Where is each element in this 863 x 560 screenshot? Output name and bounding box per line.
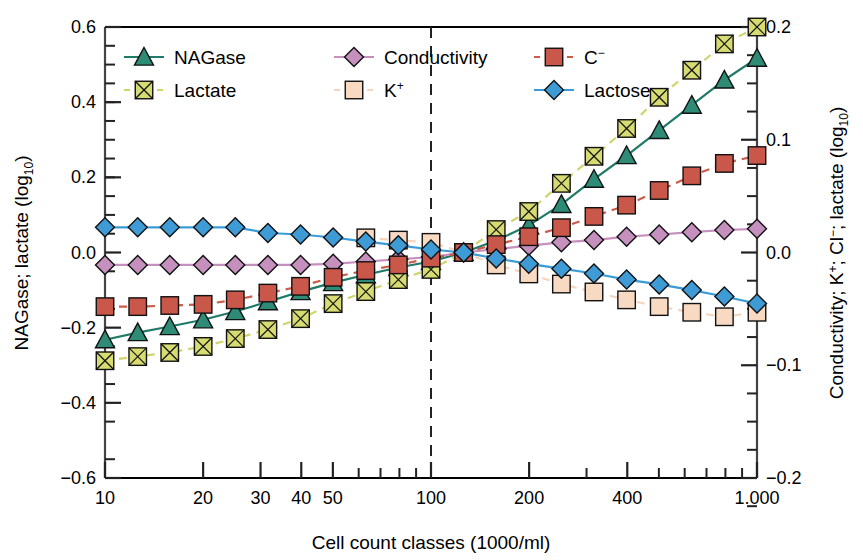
marker-cl-: [716, 155, 733, 172]
y-left-tick-label: −0.6: [60, 468, 96, 488]
legend-marker: [345, 81, 362, 98]
marker-cl-: [390, 256, 407, 273]
marker-cl-: [227, 291, 244, 308]
y-right-tick-label: −0.1: [766, 355, 802, 375]
y-left-tick-label: 0.6: [71, 17, 96, 37]
marker-k-: [650, 298, 667, 315]
marker-cl-: [96, 298, 113, 315]
y-right-tick-label: −0.2: [766, 468, 802, 488]
x-tick-label: 1.000: [734, 488, 779, 508]
marker-cl-: [292, 278, 309, 295]
y-left-tick-label: −0.2: [60, 318, 96, 338]
marker-k-: [618, 291, 635, 308]
marker-cl-: [683, 167, 700, 184]
marker-cl-: [259, 284, 276, 301]
x-tick-label: 50: [323, 488, 343, 508]
legend-label: NAGase: [174, 47, 246, 68]
x-tick-label: 10: [95, 488, 115, 508]
legend-entry-lactate: Lactate: [124, 80, 236, 101]
marker-cl-: [357, 262, 374, 279]
chart-figure: 0.60.40.20.0−0.2−0.4−0.6 0.20.10.0−0.1−0…: [0, 0, 863, 560]
legend-label: Lactate: [174, 80, 236, 101]
marker-cl-: [520, 228, 537, 245]
marker-k-: [683, 304, 700, 321]
y-left-tick-label: 0.4: [71, 92, 96, 112]
x-tick-label: 200: [514, 488, 544, 508]
y-left-tick-label: 0.2: [71, 167, 96, 187]
legend-label: Conductivity: [384, 47, 488, 68]
marker-cl-: [650, 182, 667, 199]
marker-cl-: [129, 298, 146, 315]
x-axis-title: Cell count classes (1000/ml): [312, 532, 551, 553]
legend-entry-lactose: Lactose: [534, 80, 651, 101]
marker-cl-: [748, 147, 765, 164]
x-tick-label: 30: [251, 488, 271, 508]
y-left-tick-label: −0.4: [60, 393, 96, 413]
marker-cl-: [618, 196, 635, 213]
y-right-tick-label: 0.0: [766, 243, 791, 263]
y-right-tick-label: 0.1: [766, 130, 791, 150]
legend-label: Lactose: [584, 80, 651, 101]
y-right-tick-label: 0.2: [766, 17, 791, 37]
marker-k-: [716, 308, 733, 325]
x-tick-label: 400: [612, 488, 642, 508]
x-tick-label: 100: [416, 488, 446, 508]
legend-entry-nagase: NAGase: [124, 47, 246, 68]
marker-cl-: [585, 208, 602, 225]
marker-k-: [585, 283, 602, 300]
x-tick-label: 40: [291, 488, 311, 508]
marker-cl-: [194, 296, 211, 313]
marker-cl-: [324, 269, 341, 286]
y-left-tick-label: 0.0: [71, 243, 96, 263]
x-tick-label: 20: [193, 488, 213, 508]
marker-cl-: [161, 297, 178, 314]
legend-marker: [545, 48, 562, 65]
marker-cl-: [553, 219, 570, 236]
